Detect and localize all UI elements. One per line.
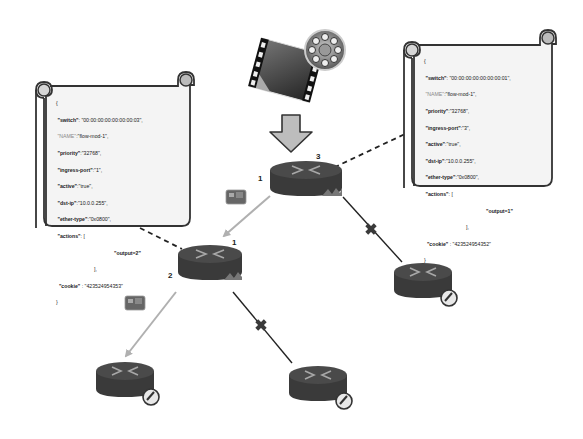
host-icon [441, 290, 457, 306]
packet-icon [226, 190, 246, 204]
flow-entry-text-right: { "switch": "00:00:00:00:00:00:00:01", "… [424, 49, 513, 273]
json-val-ether-type: :"0x0800", [87, 216, 111, 222]
json-key-actions: "actions" [57, 233, 80, 239]
port-label-middle-out: 2 [168, 271, 172, 280]
json-key-ether-type: "ether-type" [57, 216, 87, 222]
switch-top[interactable] [270, 161, 342, 196]
switch-bottom-left-leaf[interactable] [96, 362, 159, 405]
json-val-cookie: : "423524954353" [80, 283, 123, 289]
port-label-middle-in: 1 [232, 238, 236, 247]
json-brace: { [56, 100, 58, 106]
json-val-active: :"true", [77, 183, 93, 189]
switch-middle[interactable] [178, 245, 242, 280]
json-val-switch: : "00:00:00:00:00:00:00:01", [447, 75, 511, 81]
json-action-output: "output=1" [486, 208, 513, 214]
flow-entry-text-left: { "switch": "00:00:00:00:00:00:00:03", "… [56, 91, 143, 315]
json-val-priority: :"32768", [448, 108, 469, 114]
json-key-name: "NAME" [425, 91, 444, 97]
json-val-ether-type: :"0x0800", [455, 174, 479, 180]
host-icon [143, 389, 159, 405]
json-val-ingress-port: :"1", [93, 167, 102, 173]
json-val-cookie: : "423524954352" [448, 241, 491, 247]
json-val-name: :"flow-mod-1", [444, 91, 476, 97]
json-val-switch: : "00:00:00:00:00:00:00:03", [79, 117, 143, 123]
json-action-output: "output=2" [114, 250, 141, 256]
json-brace: } [56, 299, 58, 305]
json-key-dst-ip: "dst-ip" [57, 200, 76, 206]
port-label-top-in: 3 [316, 152, 320, 161]
json-val-actions: : [ [449, 191, 453, 197]
json-val-active: :"true", [445, 141, 461, 147]
json-key-active: "active" [57, 183, 77, 189]
json-key-actions: "actions" [425, 191, 448, 197]
port-label-top-out: 1 [258, 174, 262, 183]
callout-connector-left [140, 228, 182, 249]
json-key-ingress-port: "ingress-port" [57, 167, 92, 173]
switch-bottom-mid-leaf[interactable] [289, 366, 352, 409]
json-val-dst-ip: :"10.0.0.255", [445, 158, 476, 164]
json-val-dst-ip: :"10.0.0.255", [77, 200, 108, 206]
json-key-name: "NAME" [57, 133, 76, 139]
json-key-priority: "priority" [57, 150, 80, 156]
json-close-bracket: ], [94, 266, 97, 272]
json-val-priority: :"32768", [80, 150, 101, 156]
json-val-ingress-port: :"3", [461, 125, 470, 131]
video-film-reel-icon [248, 30, 345, 103]
json-key-switch: "switch" [425, 75, 446, 81]
json-key-cookie: "cookie" [427, 241, 448, 247]
host-icon [336, 393, 352, 409]
json-brace: { [424, 58, 426, 64]
down-arrow-icon [270, 115, 312, 152]
json-brace: } [424, 257, 426, 263]
json-key-cookie: "cookie" [59, 283, 80, 289]
json-key-active: "active" [425, 141, 445, 147]
json-key-ether-type: "ether-type" [425, 174, 455, 180]
json-key-dst-ip: "dst-ip" [425, 158, 444, 164]
json-close-bracket: ], [466, 224, 469, 230]
json-val-name: :"flow-mod-1", [76, 133, 108, 139]
json-key-priority: "priority" [425, 108, 448, 114]
json-key-switch: "switch" [57, 117, 78, 123]
json-val-actions: : [ [81, 233, 85, 239]
json-key-ingress-port: "ingress-port" [425, 125, 460, 131]
